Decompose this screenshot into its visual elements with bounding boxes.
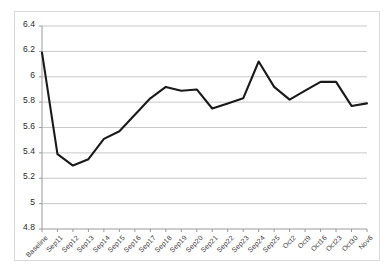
line-chart-svg (15, 12, 379, 260)
x-axis-ticks (39, 26, 367, 232)
data-line-series-1 (42, 53, 367, 166)
chart-container: 6.46.265.85.65.45.254.8 BaselineSep11Sep… (0, 0, 392, 277)
gridlines-group (42, 26, 367, 229)
chart-plot-frame (14, 11, 380, 261)
